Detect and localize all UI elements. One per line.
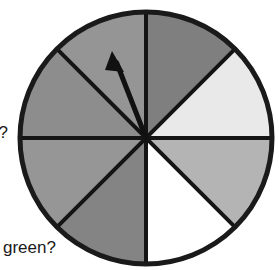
- question-label-red: red?: [0, 124, 8, 141]
- spinner-wheel[interactable]: [0, 0, 279, 270]
- spinner-figure: red? green?: [0, 0, 279, 270]
- question-label-green: green?: [3, 239, 56, 256]
